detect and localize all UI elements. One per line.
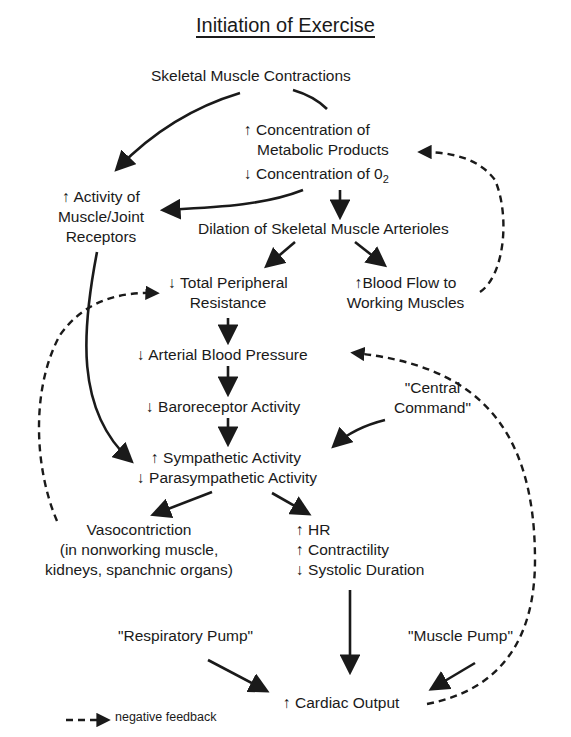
node-autonomic-activity: ↑ Sympathetic Activity ↓ Parasympathetic… — [137, 448, 317, 488]
node-central-command: "Central Command" — [385, 378, 480, 418]
sympathetic-line: ↑ Sympathetic Activity — [137, 448, 317, 468]
node-muscle-joint-receptors: ↑ Activity of Muscle/Joint Receptors — [46, 187, 156, 247]
arrow-o2-to-receptors — [165, 190, 303, 210]
arrow-central-to-sympathetic — [335, 420, 385, 445]
node-vasoconstriction: Vasocontriction (in nonworking muscle, k… — [24, 520, 254, 580]
hr-line: ↑ HR — [296, 520, 424, 540]
vaso-line-3: kidneys, spanchnic organs) — [24, 560, 254, 580]
node-cardiac-effects: ↑ HR ↑ Contractility ↓ Systolic Duration — [296, 520, 424, 580]
receptors-line-3: Receptors — [46, 227, 156, 247]
node-dilation-arterioles: Dilation of Skeletal Muscle Arterioles — [198, 219, 449, 239]
arrow-para-to-hr — [272, 493, 307, 513]
o2-subscript: 2 — [383, 173, 389, 185]
tpr-line-1: ↓ Total Peripheral — [158, 273, 298, 293]
o2-line: ↓ Concentration of 0 — [244, 165, 383, 182]
central-line-1: "Central — [385, 378, 480, 398]
vaso-line-2: (in nonworking muscle, — [24, 540, 254, 560]
arrow-contractions-to-receptors — [118, 93, 240, 168]
node-skeletal-muscle-contractions: Skeletal Muscle Contractions — [151, 66, 351, 86]
node-blood-flow-working-muscles: ↑Blood Flow to Working Muscles — [333, 273, 478, 313]
node-baroreceptor-activity: ↓ Baroreceptor Activity — [146, 397, 300, 417]
diagram-title: Initiation of Exercise — [0, 14, 571, 37]
receptors-line-2: Muscle/Joint — [46, 207, 156, 227]
bloodflow-line-1: ↑Blood Flow to — [333, 273, 478, 293]
central-line-2: Command" — [385, 398, 480, 418]
arrow-dilation-to-tpr — [268, 242, 295, 265]
receptors-line-1: ↑ Activity of — [46, 187, 156, 207]
contractility-line: ↑ Contractility — [296, 540, 424, 560]
node-muscle-pump: "Muscle Pump" — [408, 626, 513, 646]
bloodflow-line-2: Working Muscles — [333, 293, 478, 313]
arrow-para-to-vaso — [155, 492, 212, 514]
node-total-peripheral-resistance: ↓ Total Peripheral Resistance — [158, 273, 298, 313]
vaso-line-1: Vasocontriction — [24, 520, 254, 540]
diagram-canvas: Initiation of Exercise Skeletal Muscle C… — [0, 0, 571, 737]
legend-label: negative feedback — [115, 710, 216, 724]
systolic-line: ↓ Systolic Duration — [296, 560, 424, 580]
arrow-contractions-to-metabolic — [293, 90, 327, 109]
arrow-receptors-to-sympathetic — [86, 252, 130, 460]
node-cardiac-output: ↑ Cardiac Output — [283, 693, 399, 713]
node-respiratory-pump: "Respiratory Pump" — [118, 626, 253, 646]
parasympathetic-line: ↓ Parasympathetic Activity — [137, 468, 317, 488]
arrow-musclepump-to-cardiac — [433, 663, 475, 688]
node-o2-concentration: ↓ Concentration of 02 — [244, 164, 389, 189]
node-arterial-blood-pressure: ↓ Arterial Blood Pressure — [137, 345, 308, 365]
metabolic-line-2: Metabolic Products — [244, 140, 389, 160]
tpr-line-2: Resistance — [158, 293, 298, 313]
node-metabolic-products: ↑ Concentration of Metabolic Products — [244, 120, 389, 160]
arrow-resp-to-cardiac — [208, 660, 265, 690]
metabolic-line-1: ↑ Concentration of — [244, 120, 389, 140]
arrow-dilation-to-bloodflow — [355, 242, 383, 264]
